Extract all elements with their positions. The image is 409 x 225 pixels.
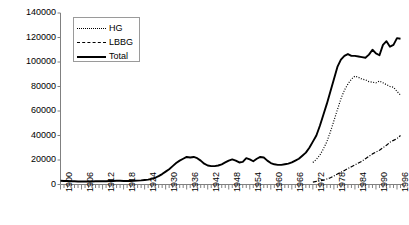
x-tick-label: 1996 [401, 172, 409, 192]
legend-key-total [77, 56, 106, 59]
legend-key-hg [77, 28, 106, 30]
y-tick-label: 40000 [0, 131, 56, 140]
legend-label: Total [109, 50, 128, 62]
y-tick-label: 80000 [0, 82, 56, 91]
x-tick-label: 1960 [275, 172, 284, 192]
x-tick-label: 1954 [254, 172, 263, 192]
y-tick-label: 100000 [0, 57, 56, 66]
x-tick-label: 1924 [149, 172, 158, 192]
y-tick-label: 120000 [0, 33, 56, 42]
x-tick-label: 1942 [212, 172, 221, 192]
y-tick-label: 20000 [0, 155, 56, 164]
x-tick-label: 1966 [296, 172, 305, 192]
y-tick-label: 140000 [0, 8, 56, 17]
legend-label: HG [109, 22, 123, 34]
x-tick-label: 1948 [233, 172, 242, 192]
legend-item: HG [74, 21, 141, 36]
x-tick-label: 1930 [170, 172, 179, 192]
x-tick-label: 1972 [317, 172, 326, 192]
chart-plot-area [0, 0, 409, 225]
x-tick-label: 1918 [128, 172, 137, 192]
x-tick-label: 1984 [359, 172, 368, 192]
x-tick-label: 1906 [86, 172, 95, 192]
series-line-hg [313, 76, 401, 162]
x-tick-label: 1978 [338, 172, 347, 192]
x-tick-label: 1912 [107, 172, 116, 192]
chart-legend: HGLBBGTotal [73, 17, 140, 62]
legend-key-lbbg [77, 42, 106, 44]
chart-container: 140000120000100000800006000040000200000 … [0, 0, 409, 225]
x-tick-label: 1900 [65, 172, 74, 192]
y-tick-label: 60000 [0, 106, 56, 115]
legend-item: Total [74, 49, 141, 64]
x-tick-label: 1990 [380, 172, 389, 192]
y-tick-label: 0 [0, 180, 56, 189]
x-tick-label: 1936 [191, 172, 200, 192]
legend-label: LBBG [109, 36, 133, 48]
legend-item: LBBG [74, 35, 141, 50]
